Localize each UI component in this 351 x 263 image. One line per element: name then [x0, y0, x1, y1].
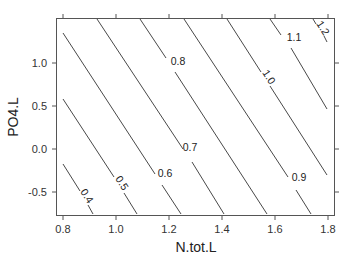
- y-tick-label: 0.5: [32, 100, 47, 112]
- contour-line-0.7: [192, 162, 224, 214]
- x-tick-labels: 0.8 1.0 1.2 1.4 1.6 1.8: [55, 223, 335, 235]
- contour-line-0.8: [140, 19, 166, 58]
- contour-label-0.9: 0.9: [292, 171, 307, 183]
- contour-labels: 0.4 0.5 0.6 0.7 0.8 0.9 1.0 1.1 1.2: [78, 18, 332, 205]
- contour-label-1.0: 1.0: [260, 67, 278, 86]
- contour-line-1.2: [324, 36, 327, 42]
- contour-label-0.7: 0.7: [183, 141, 198, 153]
- contour-line-0.4: [88, 205, 93, 214]
- contour-label-0.6: 0.6: [158, 167, 173, 179]
- contour-line-0.4: [63, 164, 80, 191]
- y-axis-title: PO4.L: [5, 97, 21, 137]
- y-tick-label: 1.0: [32, 57, 47, 69]
- x-tick-label: 0.8: [55, 223, 70, 235]
- contour-line-0.5: [124, 193, 137, 214]
- contour-line-0.6: [63, 33, 155, 174]
- contour-line-1.0: [270, 86, 327, 175]
- contour-line-0.9: [184, 19, 288, 177]
- contour-line-1.0: [227, 19, 261, 72]
- y-tick-label: -0.5: [28, 186, 47, 198]
- contour-line-0.9: [296, 190, 311, 214]
- contour-line-0.5: [63, 99, 114, 177]
- contour-label-1.1: 1.1: [287, 31, 302, 43]
- contour-lines: [63, 19, 327, 214]
- x-tick-label: 1.6: [267, 223, 282, 235]
- x-tick-label: 1.0: [108, 223, 123, 235]
- x-axis-title: N.tot.L: [175, 239, 216, 255]
- contour-label-0.5: 0.5: [113, 173, 131, 192]
- x-tick-label: 1.8: [320, 223, 335, 235]
- contour-line-1.1: [291, 48, 327, 109]
- x-tick-label: 1.4: [214, 223, 229, 235]
- y-axis-ticks-right: [335, 63, 339, 192]
- contour-line-1.1: [270, 19, 281, 35]
- x-tick-label: 1.2: [161, 223, 176, 235]
- y-tick-label: 0.0: [32, 143, 47, 155]
- contour-line-0.6: [162, 185, 181, 214]
- contour-label-1.2: 1.2: [314, 18, 332, 37]
- y-tick-labels: -0.5 0.0 0.5 1.0: [28, 57, 47, 198]
- y-axis-ticks-left: [52, 63, 56, 192]
- x-axis-ticks-top: [63, 14, 328, 18]
- contour-plot: 0.8 1.0 1.2 1.4 1.6 1.8 -0.5 0.0 0.5 1.0…: [0, 0, 351, 263]
- contour-label-0.4: 0.4: [78, 186, 96, 205]
- contour-label-0.8: 0.8: [171, 55, 186, 67]
- plot-frame: [57, 19, 335, 216]
- x-axis-ticks-bottom: [63, 216, 328, 220]
- contour-line-0.7: [97, 19, 183, 149]
